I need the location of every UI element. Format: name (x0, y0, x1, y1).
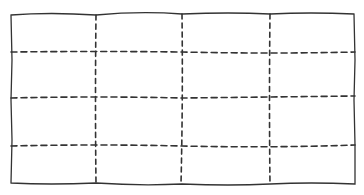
sketch-grid (0, 0, 364, 195)
grid-col-divider-3 (270, 14, 271, 184)
grid-col-divider-1 (96, 15, 97, 183)
grid-col-divider-2 (181, 14, 182, 184)
grid-row-divider-3 (11, 145, 355, 147)
